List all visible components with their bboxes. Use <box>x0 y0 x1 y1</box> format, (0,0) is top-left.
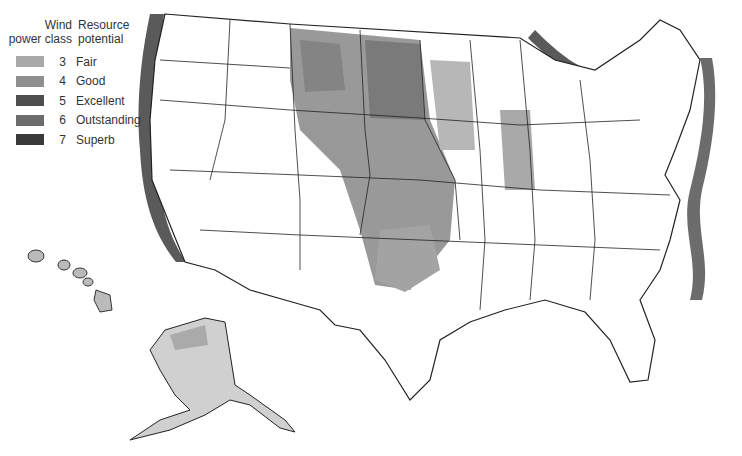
legend-header-class-line1: Wind <box>6 18 72 32</box>
legend-label: Good <box>76 74 105 88</box>
legend-swatch <box>16 115 44 126</box>
legend-class: 3 <box>44 55 66 69</box>
legend-swatch <box>16 76 44 87</box>
legend-swatch <box>16 134 44 145</box>
legend-swatch <box>16 56 44 67</box>
legend-header-potential-line1: Resource <box>78 18 129 32</box>
legend-item: 4 Good <box>6 72 146 92</box>
legend-header-class: Wind power class <box>6 18 78 46</box>
legend-item: 6 Outstanding <box>6 111 146 131</box>
legend-label: Outstanding <box>76 113 141 127</box>
legend-swatch <box>16 95 44 106</box>
legend-label: Fair <box>76 55 97 69</box>
legend-class: 5 <box>44 94 66 108</box>
legend-header-potential-line2: potential <box>78 32 129 46</box>
legend-class: 4 <box>44 74 66 88</box>
legend: Wind power class Resource potential 3 Fa… <box>6 18 146 150</box>
legend-class: 7 <box>44 133 66 147</box>
legend-header: Wind power class Resource potential <box>6 18 146 46</box>
legend-item: 7 Superb <box>6 130 146 150</box>
legend-item: 3 Fair <box>6 52 146 72</box>
legend-label: Superb <box>76 133 115 147</box>
legend-header-class-line2: power class <box>6 32 72 46</box>
legend-class: 6 <box>44 113 66 127</box>
alaska <box>130 318 295 440</box>
hawaii <box>28 250 112 312</box>
legend-header-potential: Resource potential <box>78 18 129 46</box>
legend-label: Excellent <box>76 94 125 108</box>
legend-item: 5 Excellent <box>6 91 146 111</box>
